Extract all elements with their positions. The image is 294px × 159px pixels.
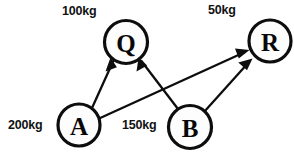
graph-diagram: Q R A B 100kg 50kg 200kg 150kg [0, 0, 294, 159]
edge-a-to-r-arrowhead [235, 49, 250, 59]
weight-label-b: 150kg [122, 119, 156, 132]
weight-label-r: 50kg [208, 4, 236, 17]
edge-b-to-q[interactable] [137, 57, 179, 109]
weight-label-a: 200kg [8, 119, 42, 132]
diagram-canvas: Q R A B [0, 0, 294, 159]
node-a[interactable]: A [58, 104, 100, 146]
edge-b-to-r-line [204, 62, 249, 112]
weight-label-q: 100kg [62, 5, 96, 18]
node-r[interactable]: R [249, 20, 291, 62]
node-q-label: Q [116, 30, 135, 57]
edge-b-to-r-arrowhead [238, 59, 252, 71]
edge-a-to-q[interactable] [92, 58, 117, 109]
node-a-label: A [70, 113, 88, 140]
node-r-label: R [261, 29, 280, 56]
node-b[interactable]: B [169, 106, 212, 149]
node-b-label: B [182, 115, 199, 142]
node-q[interactable]: Q [105, 21, 148, 64]
